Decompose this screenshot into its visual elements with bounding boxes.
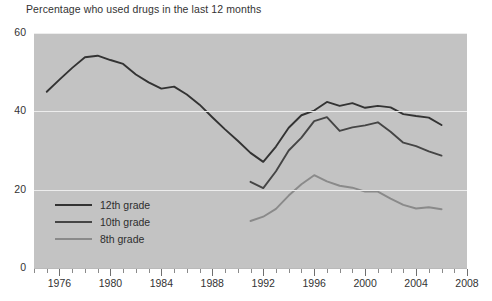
- x-axis-minor-tick-1999: [352, 269, 353, 273]
- chart-title: Percentage who used drugs in the last 12…: [26, 3, 261, 15]
- x-axis-minor-tick-1979: [98, 269, 99, 273]
- legend-label-10th-grade: 10th grade: [100, 216, 150, 228]
- legend-item-10th-grade: 10th grade: [55, 213, 150, 230]
- legend-swatch-10th-grade: [55, 221, 92, 223]
- x-axis-major-tick-1976: [59, 269, 60, 276]
- x-axis-minor-tick-1994: [289, 269, 290, 273]
- x-axis-minor-tick-1985: [174, 269, 175, 273]
- series-line-8th-grade: [251, 175, 442, 221]
- x-axis-label-2008: 2008: [447, 277, 487, 289]
- series-line-10th-grade: [251, 117, 442, 188]
- x-axis-minor-tick-1978: [85, 269, 86, 273]
- x-axis-label-1976: 1976: [39, 277, 79, 289]
- x-axis-minor-tick-2002: [391, 269, 392, 273]
- x-axis-minor-tick-2007: [454, 269, 455, 273]
- x-axis-minor-tick-1993: [276, 269, 277, 273]
- x-axis-minor-tick-1986: [187, 269, 188, 273]
- x-axis-minor-tick-1981: [123, 269, 124, 273]
- x-axis-major-tick-2000: [365, 269, 366, 276]
- x-axis-minor-tick-2003: [403, 269, 404, 273]
- legend-label-8th-grade: 8th grade: [100, 233, 144, 245]
- x-axis-major-tick-1992: [263, 269, 264, 276]
- y-axis-label-0: 0: [0, 261, 26, 273]
- x-axis-minor-tick-1997: [327, 269, 328, 273]
- x-axis-major-tick-1984: [161, 269, 162, 276]
- x-axis-minor-tick-1991: [251, 269, 252, 273]
- x-axis-major-tick-1988: [212, 269, 213, 276]
- y-axis-label-60: 60: [0, 26, 26, 38]
- x-axis-minor-tick-1989: [225, 269, 226, 273]
- legend-swatch-12th-grade: [55, 204, 92, 206]
- x-axis-major-tick-1980: [110, 269, 111, 276]
- x-axis-major-tick-2004: [416, 269, 417, 276]
- x-axis-minor-tick-1974: [34, 269, 35, 273]
- x-axis-minor-tick-1977: [72, 269, 73, 273]
- gridline-y-20: [34, 190, 467, 191]
- legend-label-12th-grade: 12th grade: [100, 199, 150, 211]
- legend-swatch-8th-grade: [55, 238, 92, 240]
- x-axis-label-1992: 1992: [243, 277, 283, 289]
- x-axis-label-1980: 1980: [90, 277, 130, 289]
- x-axis-minor-tick-1998: [340, 269, 341, 273]
- x-axis-label-1988: 1988: [192, 277, 232, 289]
- chart-legend: 12th grade 10th grade 8th grade: [55, 196, 150, 247]
- x-axis-minor-tick-1982: [136, 269, 137, 273]
- x-axis-label-1996: 1996: [294, 277, 334, 289]
- x-axis-minor-tick-1987: [200, 269, 201, 273]
- x-axis-label-2004: 2004: [396, 277, 436, 289]
- x-axis-minor-tick-1995: [301, 269, 302, 273]
- x-axis-label-2000: 2000: [345, 277, 385, 289]
- y-axis-label-20: 20: [0, 183, 26, 195]
- x-axis-minor-tick-1990: [238, 269, 239, 273]
- legend-item-12th-grade: 12th grade: [55, 196, 150, 213]
- x-axis-minor-tick-2005: [429, 269, 430, 273]
- x-axis-major-tick-1996: [314, 269, 315, 276]
- x-axis-major-tick-2008: [467, 269, 468, 276]
- gridline-y-40: [34, 111, 467, 112]
- x-axis-label-1984: 1984: [141, 277, 181, 289]
- x-axis-minor-tick-2001: [378, 269, 379, 273]
- x-axis-minor-tick-1975: [47, 269, 48, 273]
- gridline-y-60: [34, 33, 467, 34]
- x-axis-minor-tick-2006: [442, 269, 443, 273]
- series-line-12th-grade: [47, 56, 442, 162]
- line-chart: Percentage who used drugs in the last 12…: [0, 0, 492, 301]
- x-axis-minor-tick-1983: [149, 269, 150, 273]
- legend-item-8th-grade: 8th grade: [55, 230, 150, 247]
- y-axis-label-40: 40: [0, 104, 26, 116]
